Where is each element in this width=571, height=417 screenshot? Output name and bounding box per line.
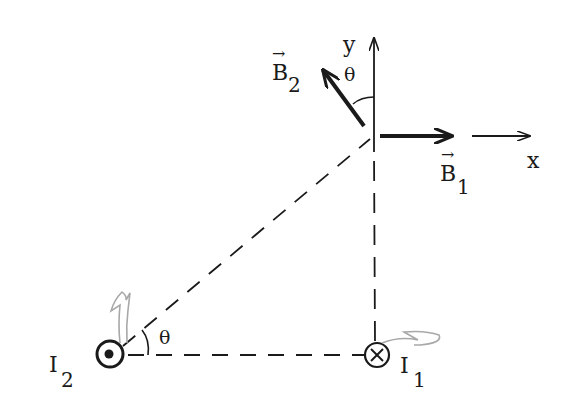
current-1-into-page-icon bbox=[365, 343, 389, 367]
b2-label: → B 2 bbox=[272, 44, 301, 97]
svg-text:1: 1 bbox=[457, 175, 470, 199]
theta-label-top: θ bbox=[344, 63, 355, 85]
theta-label-bottom: θ bbox=[159, 326, 170, 348]
angle-arc-top bbox=[353, 97, 374, 104]
magnetic-field-diagram: y x θ θ → B 2 → B 1 I 2 I 1 bbox=[0, 0, 571, 417]
i2-label: I 2 bbox=[49, 352, 74, 392]
svg-text:I: I bbox=[49, 352, 58, 377]
svg-text:1: 1 bbox=[413, 368, 426, 392]
pencil-annotation-i2 bbox=[111, 292, 130, 343]
pencil-annotation-i1 bbox=[382, 331, 440, 345]
svg-text:I: I bbox=[400, 353, 409, 378]
x-axis-label: x bbox=[527, 148, 540, 173]
current-2-out-of-page-icon bbox=[97, 341, 123, 367]
svg-text:B: B bbox=[440, 161, 456, 186]
i1-label: I 1 bbox=[400, 353, 426, 392]
dashed-line-i1-to-point bbox=[374, 150, 375, 341]
svg-text:2: 2 bbox=[288, 73, 301, 97]
dashed-line-i2-to-point bbox=[123, 139, 370, 346]
svg-text:B: B bbox=[272, 60, 288, 85]
angle-arc-bottom bbox=[142, 330, 148, 355]
y-axis-label: y bbox=[342, 32, 356, 57]
b1-label: → B 1 bbox=[440, 145, 470, 199]
svg-text:2: 2 bbox=[61, 368, 74, 392]
